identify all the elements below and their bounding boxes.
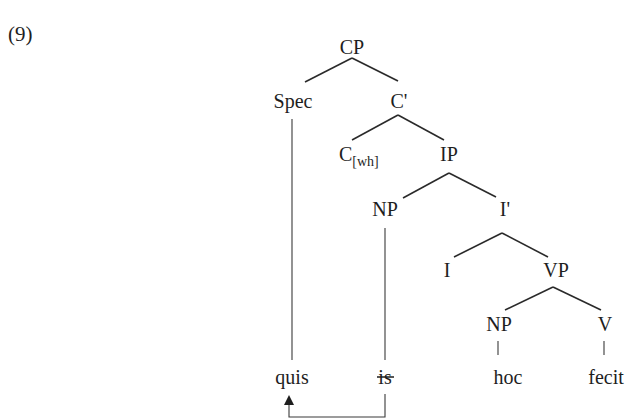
node-np-object: NP xyxy=(486,313,512,335)
edge-cp-cbar xyxy=(352,58,398,81)
movement-path xyxy=(289,394,385,417)
edge-cbar-c xyxy=(352,115,398,140)
node-spec: Spec xyxy=(274,90,313,113)
edge-cp-spec xyxy=(305,58,352,82)
movement-arrow xyxy=(284,394,385,417)
node-v: V xyxy=(598,313,613,335)
edge-ip-ibar xyxy=(449,173,496,197)
edge-ibar-i xyxy=(454,233,502,257)
node-cp: CP xyxy=(340,36,364,58)
tree-nodes: CP Spec C' C[wh] IP NP I' I VP NP V xyxy=(274,36,613,335)
tree-leaves: quis is hoc fecit xyxy=(275,366,624,389)
node-i-bar: I' xyxy=(500,198,510,220)
leaf-quis: quis xyxy=(275,366,309,389)
leaf-hoc: hoc xyxy=(494,366,523,388)
edge-vp-np xyxy=(505,287,553,310)
node-c-head: C[wh] xyxy=(339,143,379,169)
tree-edges xyxy=(292,58,604,360)
edge-ip-np xyxy=(403,173,449,198)
arrow-up-icon xyxy=(284,395,294,405)
node-np-subject: NP xyxy=(372,198,398,220)
edge-vp-v xyxy=(553,287,601,310)
leaf-fecit: fecit xyxy=(588,366,624,388)
node-c-feature: [wh] xyxy=(352,154,378,169)
edge-cbar-ip xyxy=(398,115,444,140)
node-c-head-label: C xyxy=(339,143,352,165)
edge-ibar-vp xyxy=(502,233,548,257)
node-vp: VP xyxy=(543,259,569,281)
node-c-bar: C' xyxy=(391,90,408,112)
node-i-head: I xyxy=(444,259,451,281)
node-ip: IP xyxy=(440,143,458,165)
syntax-tree: CP Spec C' C[wh] IP NP I' I VP NP V quis… xyxy=(0,0,637,419)
